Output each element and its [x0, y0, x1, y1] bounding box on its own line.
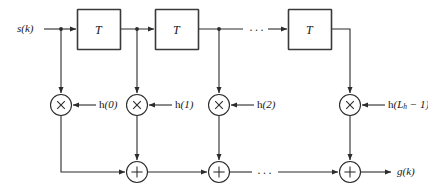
coefficient-label-1: h(1) [175, 99, 193, 110]
delay-box-last-label: T [306, 24, 313, 36]
coefficient-label-2: h(2) [257, 99, 275, 110]
coef-0-text: h(0) [99, 98, 117, 110]
fir-filter-diagram: s(k) T T T ··· ··· h(0) h(1) h(2) h(Lh −… [0, 0, 428, 193]
top-ellipsis: ··· [249, 24, 266, 36]
delay-box-1-label: T [95, 24, 102, 36]
mult-out-0 [61, 116, 125, 173]
coef-1-text: h(1) [175, 98, 193, 110]
delay-out-last [332, 29, 350, 93]
diagram-canvas [0, 0, 428, 193]
bottom-ellipsis: ··· [257, 167, 274, 179]
coef-2-text: h(2) [257, 98, 275, 110]
coefficient-label-0: h(0) [99, 99, 117, 110]
coef-last-text: h(Lh − 1) [388, 98, 428, 110]
delay-box-2-label: T [173, 24, 180, 36]
output-label: g(k) [397, 166, 415, 177]
coefficient-label-last: h(Lh − 1) [388, 99, 428, 111]
input-label: s(k) [17, 23, 34, 34]
